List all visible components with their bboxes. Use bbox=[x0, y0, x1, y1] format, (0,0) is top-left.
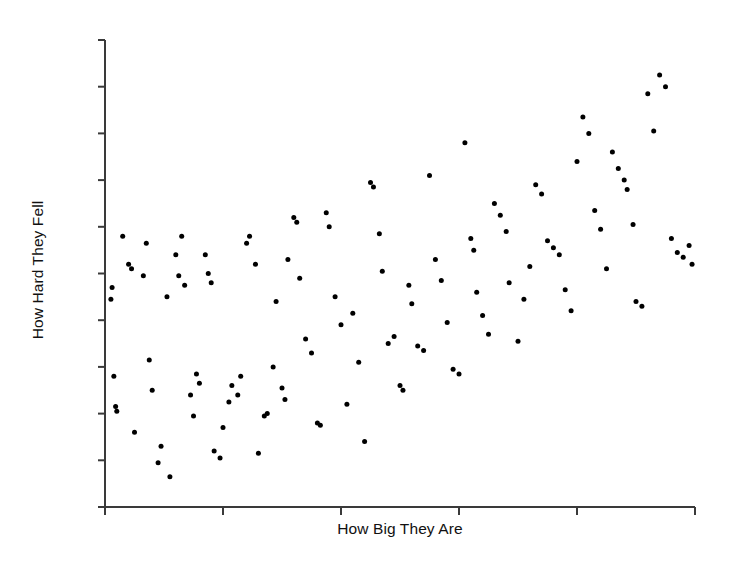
data-point bbox=[527, 264, 532, 269]
data-point bbox=[253, 262, 258, 267]
data-point bbox=[471, 248, 476, 253]
data-point bbox=[274, 299, 279, 304]
data-points-layer bbox=[108, 73, 694, 480]
data-point bbox=[226, 399, 231, 404]
data-point bbox=[474, 290, 479, 295]
scatter-plot-figure: How Big They Are How Hard They Fell bbox=[0, 0, 732, 567]
data-point bbox=[156, 460, 161, 465]
data-point bbox=[406, 283, 411, 288]
data-point bbox=[398, 383, 403, 388]
data-point bbox=[386, 341, 391, 346]
x-axis-ticks bbox=[105, 507, 695, 515]
data-point bbox=[421, 348, 426, 353]
data-point bbox=[318, 423, 323, 428]
data-point bbox=[539, 192, 544, 197]
data-point bbox=[669, 236, 674, 241]
data-point bbox=[690, 262, 695, 267]
data-point bbox=[173, 252, 178, 257]
data-point bbox=[551, 245, 556, 250]
data-point bbox=[462, 140, 467, 145]
data-point bbox=[221, 425, 226, 430]
data-point bbox=[516, 339, 521, 344]
data-point bbox=[282, 397, 287, 402]
data-point bbox=[108, 297, 113, 302]
data-point bbox=[409, 301, 414, 306]
data-point bbox=[371, 185, 376, 190]
data-point bbox=[344, 402, 349, 407]
data-point bbox=[687, 243, 692, 248]
data-point bbox=[297, 276, 302, 281]
data-point bbox=[229, 383, 234, 388]
data-point bbox=[309, 350, 314, 355]
x-axis-label: How Big They Are bbox=[337, 520, 462, 537]
data-point bbox=[368, 180, 373, 185]
data-point bbox=[114, 409, 119, 414]
data-point bbox=[598, 227, 603, 232]
data-point bbox=[415, 343, 420, 348]
data-point bbox=[218, 455, 223, 460]
data-point bbox=[557, 252, 562, 257]
data-point bbox=[132, 430, 137, 435]
data-point bbox=[164, 294, 169, 299]
data-point bbox=[280, 385, 285, 390]
data-point bbox=[651, 129, 656, 134]
data-point bbox=[427, 173, 432, 178]
data-point bbox=[110, 285, 115, 290]
data-point bbox=[439, 278, 444, 283]
data-point bbox=[498, 213, 503, 218]
data-point bbox=[569, 308, 574, 313]
chart-canvas: How Big They Are How Hard They Fell bbox=[0, 0, 732, 567]
data-point bbox=[291, 215, 296, 220]
data-point bbox=[625, 187, 630, 192]
data-point bbox=[191, 413, 196, 418]
data-point bbox=[206, 271, 211, 276]
data-point bbox=[563, 287, 568, 292]
data-point bbox=[468, 236, 473, 241]
data-point bbox=[400, 388, 405, 393]
data-point bbox=[663, 84, 668, 89]
data-point bbox=[622, 178, 627, 183]
data-point bbox=[645, 91, 650, 96]
data-point bbox=[111, 374, 116, 379]
data-point bbox=[492, 201, 497, 206]
data-point bbox=[380, 269, 385, 274]
data-point bbox=[604, 266, 609, 271]
data-point bbox=[327, 224, 332, 229]
data-point bbox=[120, 234, 125, 239]
data-point bbox=[238, 374, 243, 379]
data-point bbox=[247, 234, 252, 239]
data-point bbox=[212, 448, 217, 453]
data-point bbox=[533, 182, 538, 187]
data-point bbox=[675, 250, 680, 255]
data-point bbox=[303, 336, 308, 341]
data-point bbox=[610, 150, 615, 155]
data-point bbox=[681, 255, 686, 260]
data-point bbox=[377, 231, 382, 236]
data-point bbox=[486, 332, 491, 337]
data-point bbox=[616, 166, 621, 171]
data-point bbox=[480, 313, 485, 318]
data-point bbox=[256, 451, 261, 456]
data-point bbox=[150, 388, 155, 393]
data-point bbox=[147, 357, 152, 362]
data-point bbox=[271, 364, 276, 369]
data-point bbox=[141, 273, 146, 278]
data-point bbox=[350, 311, 355, 316]
data-point bbox=[244, 241, 249, 246]
data-point bbox=[144, 241, 149, 246]
data-point bbox=[521, 297, 526, 302]
data-point bbox=[182, 283, 187, 288]
data-point bbox=[586, 131, 591, 136]
data-point bbox=[179, 234, 184, 239]
data-point bbox=[188, 392, 193, 397]
data-point bbox=[209, 280, 214, 285]
data-point bbox=[631, 222, 636, 227]
data-point bbox=[176, 273, 181, 278]
data-point bbox=[194, 371, 199, 376]
data-point bbox=[113, 404, 118, 409]
data-point bbox=[197, 381, 202, 386]
data-point bbox=[507, 280, 512, 285]
data-point bbox=[592, 208, 597, 213]
data-point bbox=[333, 294, 338, 299]
data-point bbox=[433, 257, 438, 262]
